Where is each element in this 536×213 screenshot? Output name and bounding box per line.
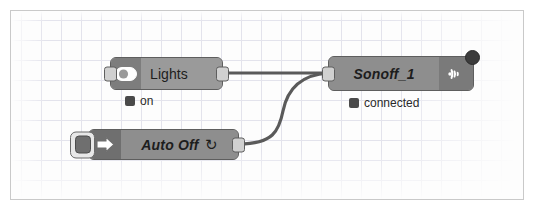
inject-trigger-button-inner bbox=[75, 136, 91, 154]
node-sonoff-1-body[interactable]: Sonoff_1 bbox=[329, 57, 473, 90]
flow-canvas[interactable]: Lights on Sonoff_1 bbox=[10, 10, 524, 200]
node-lights-status-dot bbox=[125, 96, 135, 106]
inject-trigger-button[interactable] bbox=[70, 131, 95, 158]
node-auto-off-label-cell: Auto Off ↻ bbox=[121, 130, 238, 159]
node-lights-status-text: on bbox=[140, 94, 153, 108]
node-sonoff-1-label: Sonoff_1 bbox=[353, 66, 414, 82]
node-sonoff-1-status: connected bbox=[349, 96, 419, 110]
node-lights-input-port[interactable] bbox=[104, 66, 117, 81]
node-sonoff-1-status-badge[interactable] bbox=[465, 50, 480, 65]
node-auto-off-label: Auto Off bbox=[141, 137, 198, 153]
repeat-loop-icon: ↻ bbox=[205, 136, 218, 154]
node-sonoff-1-status-text: connected bbox=[364, 96, 419, 110]
node-sonoff-1-label-cell: Sonoff_1 bbox=[329, 57, 439, 90]
node-red-editor: Lights on Sonoff_1 bbox=[0, 0, 536, 213]
node-lights-status: on bbox=[125, 94, 153, 108]
node-auto-off[interactable]: Auto Off ↻ bbox=[88, 129, 239, 160]
node-auto-off-output-port[interactable] bbox=[232, 137, 245, 152]
wire-autooff-to-sonoff bbox=[239, 73, 328, 144]
node-lights-label: Lights bbox=[150, 66, 188, 82]
node-sonoff-1-input-port[interactable] bbox=[322, 66, 335, 81]
node-lights[interactable]: Lights bbox=[110, 57, 223, 90]
wires-layer bbox=[11, 11, 524, 200]
node-lights-body[interactable]: Lights bbox=[111, 58, 222, 89]
node-auto-off-body[interactable]: Auto Off ↻ bbox=[89, 130, 238, 159]
node-lights-label-cell: Lights bbox=[141, 58, 222, 89]
node-lights-output-port[interactable] bbox=[216, 66, 229, 81]
node-sonoff-1[interactable]: Sonoff_1 bbox=[328, 56, 474, 91]
canvas-grid bbox=[11, 11, 523, 199]
node-sonoff-1-status-dot bbox=[349, 98, 359, 108]
